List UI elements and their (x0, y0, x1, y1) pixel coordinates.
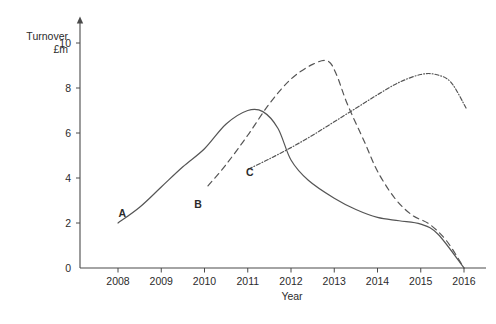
x-tick-label: 2008 (106, 275, 130, 287)
y-axis-tick-labels: 0246810 (59, 37, 71, 274)
chart-container: 0246810 20082009201020112012201320142015… (0, 0, 496, 324)
y-tick-label: 6 (65, 127, 71, 139)
x-tick-label: 2010 (193, 275, 217, 287)
series-label-a: A (119, 207, 127, 219)
y-tick-label: 8 (65, 82, 71, 94)
axes (77, 17, 486, 269)
x-axis-tick-labels: 200820092010201120122013201420152016 (106, 275, 476, 287)
series-label-c: C (246, 166, 254, 178)
y-axis-title-line2: £m (53, 43, 68, 55)
y-tick-label: 2 (65, 217, 71, 229)
series-labels: ABC (119, 166, 255, 220)
x-tick-label: 2014 (366, 275, 390, 287)
series-line-a (118, 109, 464, 268)
y-axis-arrowhead (77, 17, 83, 24)
y-tick-label: 0 (65, 262, 71, 274)
x-tick-label: 2009 (150, 275, 174, 287)
axis-ticks (76, 43, 464, 273)
x-tick-label: 2015 (409, 275, 433, 287)
y-axis-title-line1: Turnover (26, 30, 68, 42)
y-tick-label: 4 (65, 172, 71, 184)
x-axis-title: Year (281, 290, 303, 302)
line-chart: 0246810 20082009201020112012201320142015… (0, 0, 496, 324)
series-label-b: B (194, 198, 202, 210)
data-series (118, 60, 466, 268)
x-tick-label: 2011 (236, 275, 259, 287)
series-line-c (249, 74, 467, 169)
series-line-b (208, 60, 464, 268)
x-tick-label: 2016 (452, 275, 476, 287)
x-tick-label: 2012 (279, 275, 303, 287)
x-tick-label: 2013 (323, 275, 347, 287)
